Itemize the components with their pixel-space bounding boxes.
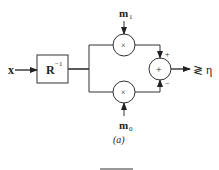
caption: (a) [113, 134, 125, 146]
input-label: x [8, 63, 14, 77]
top-weight-sub: 1 [129, 13, 133, 21]
bottom-weight-sub: 0 [129, 125, 133, 133]
sum-symbol: + [156, 64, 162, 75]
bottom-mult-symbol: × [121, 88, 126, 97]
bottom-weight: m [119, 119, 128, 131]
top-to-sum [135, 45, 160, 58]
top-weight: m [119, 7, 128, 19]
block-diagram: x R −1 × × + m 1 m 0 + − ≷ η (a) [0, 0, 219, 170]
bottom-to-sum [135, 80, 160, 92]
filter-base: R [46, 63, 55, 77]
top-mult-symbol: × [121, 41, 126, 50]
decision-label: ≷ η [193, 63, 212, 77]
bottom-sign: − [165, 79, 170, 88]
filter-sup: −1 [55, 60, 63, 68]
top-sign: + [165, 50, 170, 59]
